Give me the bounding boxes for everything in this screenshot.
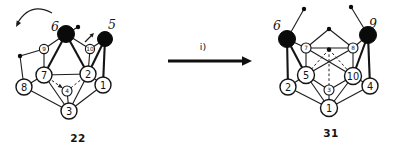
curved-rearrangement-arrow — [16, 9, 52, 27]
vertex-callout-6: 6 — [273, 18, 281, 33]
vertex-number-1: 1 — [100, 80, 106, 91]
substituent-dot-m6r — [302, 7, 306, 11]
reaction-scheme: 9107281436578510243169 i) 22 31 const da… — [0, 0, 394, 152]
compound-number-31: 31 — [323, 127, 339, 139]
substituent-dot-m6 — [76, 25, 80, 29]
substituent-dot-mL — [18, 54, 22, 58]
vertex-number-5: 5 — [303, 70, 309, 81]
structure-31: 78510243169 — [273, 5, 378, 117]
vertex-number-10: 10 — [347, 71, 359, 82]
vertex-number-2: 2 — [285, 82, 291, 93]
vertex-number-9: 9 — [42, 46, 46, 52]
vertex-number-8: 8 — [21, 82, 27, 93]
reaction-arrow — [168, 56, 252, 66]
substituent-dot-top — [327, 27, 331, 31]
vertex-6-filled — [279, 31, 296, 48]
substituent-dot-mid — [327, 47, 331, 51]
vertex-number-4: 4 — [367, 81, 373, 92]
vertex-callout-5: 5 — [108, 17, 116, 32]
substituent-dot-m9 — [349, 5, 353, 9]
vertex-number-10: 10 — [86, 46, 94, 52]
compound-number-22: 22 — [70, 132, 86, 144]
vertex-number-7: 7 — [41, 70, 47, 81]
vertex-number-7: 7 — [304, 45, 308, 51]
vertex-number-4: 4 — [65, 88, 69, 94]
vertex-callout-6: 6 — [51, 19, 59, 34]
vertex-5-filled — [98, 32, 113, 47]
vertex-number-3: 3 — [327, 87, 331, 93]
vertex-6-filled — [58, 26, 75, 43]
vertex-number-3: 3 — [66, 106, 72, 117]
vertex-callout-9: 9 — [369, 16, 377, 31]
vertex-number-2: 2 — [85, 69, 91, 80]
reaction-step-label: i) — [200, 41, 206, 52]
methyl-migration-arrow — [85, 33, 94, 42]
structure-22: 91072814365 — [16, 17, 116, 120]
vertex-number-1: 1 — [326, 103, 332, 114]
vertex-number-8: 8 — [351, 45, 355, 51]
